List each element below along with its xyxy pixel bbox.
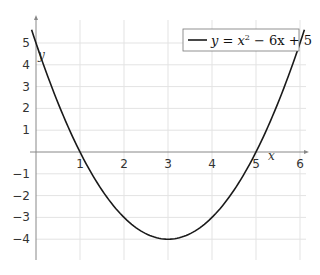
x-tick-label: 4 [208, 157, 216, 171]
y-tick-label: −2 [12, 189, 30, 203]
y-tick-label: −4 [12, 232, 30, 246]
x-tick-label: 2 [120, 157, 128, 171]
x-tick-label: 3 [164, 157, 172, 171]
y-tick-label: 3 [22, 80, 30, 94]
grid-lines [36, 20, 306, 260]
y-tick-label: −1 [12, 167, 30, 181]
legend: y = x2 − 6x + 5 [183, 29, 312, 51]
y-tick-label: 1 [22, 123, 30, 137]
x-tick-label: 6 [296, 157, 304, 171]
y-tick-label: 2 [22, 101, 30, 115]
legend-label: y = x2 − 6x + 5 [210, 33, 312, 48]
y-tick-label: −3 [12, 210, 30, 224]
x-axis-label: x [268, 149, 275, 163]
quadratic-chart: 123456 54321−1−2−3−4 x y y = x2 − 6x + 5 [0, 0, 320, 275]
x-tick-label: 5 [252, 157, 260, 171]
axes [30, 15, 309, 260]
y-axis-arrow-icon [34, 15, 38, 20]
y-tick-label: 5 [22, 36, 30, 50]
y-tick-labels: 54321−1−2−3−4 [12, 36, 30, 246]
y-tick-label: 4 [22, 58, 30, 72]
x-tick-label: 1 [76, 157, 84, 171]
x-axis-arrow-icon [304, 150, 309, 154]
